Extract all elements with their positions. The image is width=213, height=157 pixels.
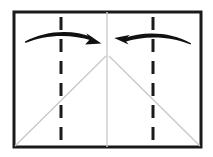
fold-diagram-container (0, 0, 213, 157)
fold-diagram (0, 0, 213, 157)
